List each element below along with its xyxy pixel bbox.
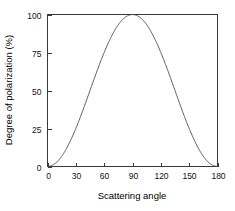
x-axis-title: Scattering angle [98, 190, 167, 201]
y-tick-label-75: 75 [32, 49, 42, 59]
y-tick-label-25: 25 [32, 125, 42, 135]
polarization-line-chart: 0306090120150180 0255075100 Scattering a… [0, 0, 235, 211]
y-tick-label-50: 50 [32, 87, 42, 97]
x-tick-label-90: 90 [129, 171, 139, 181]
y-tick-label-100: 100 [27, 11, 41, 21]
plot-frame [48, 15, 218, 167]
x-tick-label-150: 150 [182, 171, 196, 181]
y-tick-label-0: 0 [37, 163, 42, 173]
x-tick-label-60: 60 [100, 171, 110, 181]
y-axis-title: Degree of polarization (%) [3, 35, 14, 145]
y-axis-ticks [48, 16, 52, 168]
x-axis-tick-labels: 0306090120150180 [46, 171, 226, 181]
x-tick-label-30: 30 [72, 171, 82, 181]
polarization-curve [48, 15, 218, 167]
y-axis-tick-labels: 0255075100 [27, 11, 41, 173]
x-tick-label-120: 120 [154, 171, 168, 181]
chart-figure: 0306090120150180 0255075100 Scattering a… [0, 0, 235, 211]
x-tick-label-180: 180 [211, 171, 225, 181]
x-tick-label-0: 0 [46, 171, 51, 181]
x-axis-ticks [49, 163, 219, 167]
